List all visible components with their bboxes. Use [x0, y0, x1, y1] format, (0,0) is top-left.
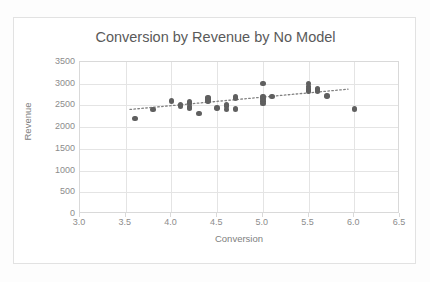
data-point — [352, 106, 357, 111]
y-tick-label: 2000 — [55, 121, 75, 131]
data-point — [233, 106, 238, 111]
data-point — [205, 98, 210, 103]
data-point — [260, 81, 265, 86]
data-point — [150, 107, 155, 112]
plot-area — [79, 61, 399, 213]
y-tick-label: 1000 — [55, 165, 75, 175]
trendline — [80, 62, 398, 213]
data-point — [178, 103, 183, 108]
x-tick-label: 3.0 — [73, 217, 86, 227]
data-point — [260, 101, 265, 106]
data-point — [132, 116, 137, 121]
y-axis-tick-labels: 0500100015002000250030003500 — [36, 61, 75, 213]
data-point — [306, 88, 311, 93]
chart-title: Conversion by Revenue by No Model — [14, 29, 417, 45]
x-tick-label: 4.5 — [210, 217, 223, 227]
y-tick-label: 3000 — [55, 78, 75, 88]
x-tick-label: 5.5 — [301, 217, 314, 227]
y-tick-label: 2500 — [55, 99, 75, 109]
x-tick-label: 6.0 — [347, 217, 360, 227]
data-point — [214, 105, 219, 110]
chart-container: Conversion by Revenue by No Model Revenu… — [13, 17, 416, 264]
y-tick-label: 1500 — [55, 143, 75, 153]
x-axis-tick-labels: 3.03.54.04.55.05.56.06.5 — [79, 217, 399, 231]
x-tick-label: 4.0 — [164, 217, 177, 227]
data-point — [196, 111, 201, 116]
x-axis-title: Conversion — [79, 233, 399, 244]
x-tick-label: 3.5 — [118, 217, 131, 227]
data-point — [324, 93, 329, 98]
y-tick-label: 500 — [60, 186, 75, 196]
x-tick-label: 6.5 — [393, 217, 406, 227]
data-point — [224, 103, 229, 108]
data-point — [169, 98, 174, 103]
y-tick-label: 3500 — [55, 56, 75, 66]
y-axis-title: Revenue — [22, 87, 33, 157]
x-tick-label: 5.0 — [256, 217, 269, 227]
